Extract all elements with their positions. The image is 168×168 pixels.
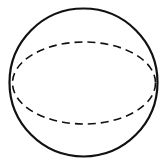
sphere-diagram — [0, 0, 168, 168]
sphere-figure — [0, 0, 168, 168]
background — [0, 0, 168, 168]
